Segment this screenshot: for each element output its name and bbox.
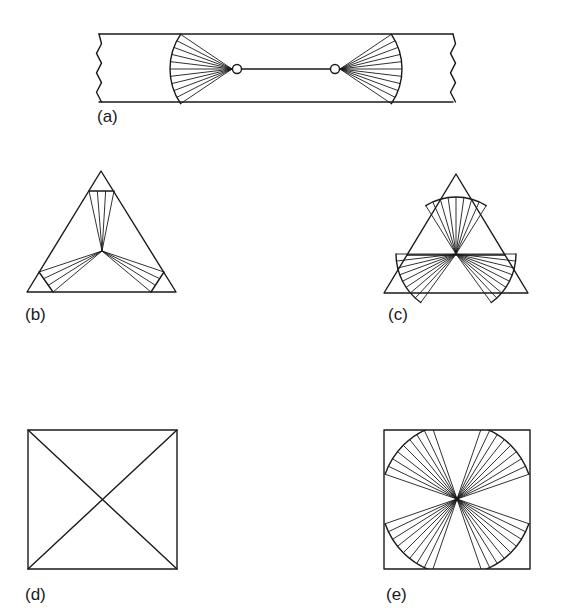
panel-e-label: (e) [386,586,407,603]
fan-2 [456,254,516,303]
fan-spoke [340,69,400,84]
fan-spoke [403,445,457,499]
fan-1 [457,427,529,499]
strip-left-break-edge [97,34,102,102]
fan-spoke [385,499,457,524]
node-circle-1 [233,65,242,74]
fan-2 [385,499,457,571]
fan-spoke [102,251,151,292]
strip-right-break-edge [451,34,456,102]
fan-1 [396,254,456,303]
fan-spoke [102,251,164,272]
fan-spoke [385,474,457,499]
fan-0 [89,191,114,251]
triangle-outline [27,171,176,292]
panel-d-square-diagonals [28,430,177,569]
fan-spoke [177,69,232,97]
fan-spoke [102,251,155,285]
fan-spoke [440,199,456,254]
fan-spoke [403,499,457,553]
fan-right [340,34,402,103]
panel-c-label: (c) [388,306,408,323]
fan-spoke [456,254,497,298]
panel-c-triangle-arc-fans [384,174,528,303]
fan-spoke [415,254,456,298]
fan-spoke [340,54,400,69]
panel-a-label: (a) [97,108,118,125]
fan-spoke [432,499,457,571]
fan-spoke [426,206,456,254]
fan-spoke [172,69,232,84]
fan-spoke [456,206,486,254]
fan-spoke [44,251,102,279]
fan-spoke [39,251,102,272]
panel-a-strip-with-two-fans [97,34,456,104]
fan-left [170,34,232,103]
fan-spoke [102,251,160,279]
fan-spoke [432,427,457,499]
fan-spoke [457,499,482,571]
fan-spoke [457,474,529,499]
fan-0 [426,197,486,254]
panel-e-square-corner-fans [384,427,530,571]
fan-spoke [340,69,395,97]
fan-spoke [340,41,395,69]
fan-0 [385,427,457,499]
fan-spoke [48,251,102,285]
fan-spoke [177,41,232,69]
fan-spoke [53,251,102,292]
panel-d-label: (d) [25,586,46,603]
fan-spoke [457,499,529,524]
fan-spoke [456,199,472,254]
fan-spoke [457,445,511,499]
fan-spoke [457,427,482,499]
diagram-canvas [0,0,566,612]
panel-b-triangle-chord-fans [27,171,176,292]
fan-spoke [172,54,232,69]
fan-3 [457,499,529,571]
corner-fans [385,427,529,571]
fan-spoke [457,499,511,553]
node-circle-2 [331,65,340,74]
panel-b-label: (b) [25,306,46,323]
